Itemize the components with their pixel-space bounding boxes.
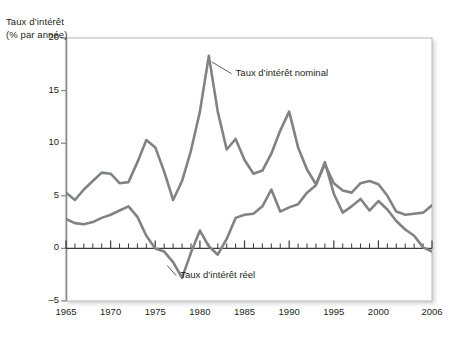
x-tick-label: 2006 bbox=[412, 306, 452, 317]
series-annotation-label: Taux d’intérêt nominal bbox=[236, 67, 328, 78]
x-tick-label: 1990 bbox=[269, 306, 309, 317]
y-tick-label: –5 bbox=[33, 294, 59, 305]
x-tick-label: 1975 bbox=[135, 306, 175, 317]
x-tick-label: 1965 bbox=[46, 306, 86, 317]
y-tick-label: 20 bbox=[33, 31, 59, 42]
y-tick-label: 5 bbox=[33, 189, 59, 200]
y-tick-label: 15 bbox=[33, 84, 59, 95]
y-axis-ticks bbox=[61, 38, 66, 301]
x-tick-label: 1980 bbox=[180, 306, 220, 317]
x-tick-label: 1985 bbox=[225, 306, 265, 317]
y-tick-label: 10 bbox=[33, 136, 59, 147]
interest-rate-chart bbox=[0, 0, 456, 340]
y-axis-title-line1: Taux d’intérêt bbox=[6, 16, 64, 27]
series-annotation-label: Taux d’intérêt réel bbox=[180, 269, 255, 280]
x-tick-label: 1970 bbox=[91, 306, 131, 317]
x-tick-label: 2000 bbox=[358, 306, 398, 317]
x-tick-label: 1995 bbox=[314, 306, 354, 317]
y-tick-label: 0 bbox=[33, 241, 59, 252]
